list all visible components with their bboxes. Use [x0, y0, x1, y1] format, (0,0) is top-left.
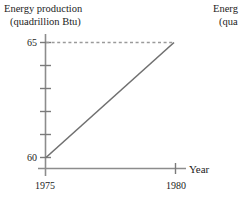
y-tick-label-65: 65	[27, 37, 37, 48]
figure-container: Energy production (quadrillion Btu) Ener…	[0, 0, 248, 197]
x-tick-label-1980: 1980	[166, 180, 186, 191]
y-tick-label-60: 60	[27, 152, 37, 163]
x-tick-label-1975: 1975	[35, 180, 55, 191]
data-line-energy-production	[46, 43, 174, 158]
line-chart-plot: 65 60 1975 1980 Year	[0, 0, 248, 197]
x-axis-label: Year	[189, 163, 210, 175]
